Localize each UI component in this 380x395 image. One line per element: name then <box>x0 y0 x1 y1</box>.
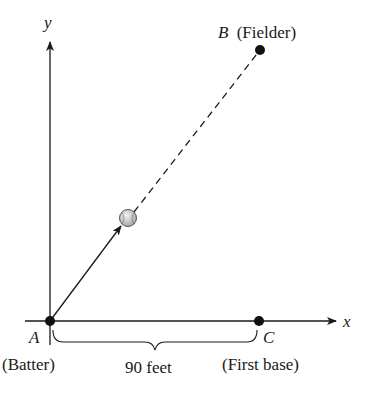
point-c-desc: (First base) <box>222 355 299 374</box>
point-b-label: B (Fielder) <box>218 23 296 42</box>
distance-label: 90 feet <box>125 358 172 377</box>
point-a-letter: A <box>28 328 40 347</box>
point-c <box>254 316 264 326</box>
point-b <box>255 45 265 55</box>
y-axis-label: y <box>42 13 52 32</box>
x-axis-label: x <box>342 312 351 331</box>
point-a <box>45 316 55 326</box>
baseball-diagram: y x B (Fielder) A (Batter) C (First base… <box>0 0 380 395</box>
point-b-desc: (Fielder) <box>237 23 296 42</box>
baseball-icon <box>120 210 137 227</box>
distance-brace <box>53 330 257 350</box>
point-a-desc: (Batter) <box>2 355 55 374</box>
trajectory-dashed-line <box>134 50 260 212</box>
point-b-letter: B <box>218 23 229 42</box>
ball-direction-arrow <box>50 226 121 321</box>
point-c-letter: C <box>263 328 275 347</box>
